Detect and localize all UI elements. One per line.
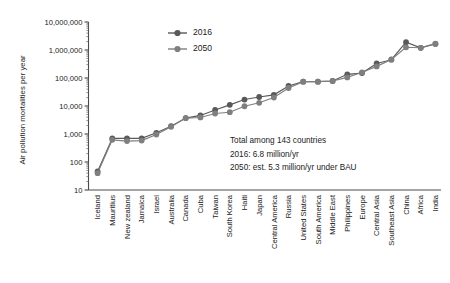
- annotation-line: 2016: 6.8 million/yr: [230, 150, 299, 159]
- data-point: [256, 100, 262, 106]
- x-axis-tick-label: Jamaica: [137, 194, 146, 223]
- x-axis-tick-label: Central America: [270, 194, 279, 249]
- data-point: [124, 138, 130, 144]
- x-axis-tick-label: Canada: [181, 194, 190, 221]
- data-point: [227, 102, 233, 108]
- x-axis-tick-label: India: [431, 194, 440, 211]
- data-point: [315, 79, 321, 85]
- y-axis-tick-label: 10,000,000: [44, 18, 82, 27]
- legend-item-2050[interactable]: 2050: [168, 43, 212, 53]
- x-axis-tick-label: Philippines: [343, 195, 352, 232]
- data-point: [183, 115, 189, 121]
- annotation-line: Total among 143 countries: [230, 136, 326, 145]
- data-point: [433, 41, 439, 47]
- legend-item-2016[interactable]: 2016: [168, 27, 212, 37]
- data-point: [330, 78, 336, 84]
- y-axis-tick-label: 100,000: [55, 74, 82, 83]
- data-point: [344, 75, 350, 81]
- data-point: [212, 111, 218, 117]
- data-point: [227, 109, 233, 115]
- x-axis-tick-label: Europe: [358, 195, 367, 220]
- x-axis-tick-label: Japan: [255, 195, 264, 216]
- data-point: [271, 95, 277, 101]
- x-axis-tick-label: South America: [314, 194, 323, 244]
- y-axis-tick-label: 1,000,000: [49, 46, 83, 55]
- data-point: [109, 137, 115, 143]
- chart-canvas: Air pollution mortalities per year 10,00…: [0, 0, 450, 283]
- air-pollution-mortality-chart: Air pollution mortalities per year 10,00…: [0, 0, 450, 283]
- y-axis-tick-label: 1,000: [63, 130, 82, 139]
- data-point: [242, 97, 248, 103]
- y-axis-tick-label: 10: [74, 186, 82, 195]
- data-point: [374, 63, 380, 69]
- y-axis-tick-label: 10,000: [59, 102, 82, 111]
- data-point: [168, 124, 174, 130]
- data-point: [403, 44, 409, 50]
- x-axis-tick-label: Cuba: [196, 194, 205, 213]
- legend-marker: [174, 30, 180, 36]
- x-axis-tick-label: Taiwan: [211, 195, 220, 219]
- data-point: [286, 85, 292, 91]
- data-point: [388, 57, 394, 63]
- data-point: [359, 69, 365, 75]
- x-axis-tick-label: South Korea: [225, 194, 234, 237]
- data-point: [256, 94, 262, 100]
- legend-marker: [174, 46, 180, 52]
- data-point: [242, 103, 248, 109]
- x-axis-tick-label: Mauritius: [108, 195, 117, 226]
- y-axis-title-label: Air pollution mortalities per year: [18, 55, 27, 165]
- y-axis-title: Air pollution mortalities per year: [18, 55, 27, 165]
- data-point: [95, 170, 101, 176]
- x-axis-tick-label: Iceland: [93, 195, 102, 220]
- data-point: [300, 79, 306, 85]
- x-axis-tick-label: Australia: [167, 194, 176, 224]
- x-axis-tick-label: Israel: [152, 195, 161, 214]
- x-axis-tick-label: Southeast Asia: [387, 194, 396, 245]
- data-point: [153, 132, 159, 138]
- x-axis-tick-label: Russia: [284, 194, 293, 218]
- legend-label: 2016: [193, 27, 212, 37]
- data-point: [198, 115, 204, 121]
- x-axis-tick-label: Central Asia: [372, 194, 381, 236]
- data-point: [139, 138, 145, 144]
- data-point: [418, 45, 424, 51]
- y-axis: 10,000,0001,000,000100,00010,0001,000100…: [44, 18, 88, 195]
- legend-label: 2050: [193, 43, 212, 53]
- chart-legend: 20162050: [168, 27, 212, 53]
- x-axis-tick-label: Middle East: [328, 194, 337, 235]
- data-point: [403, 39, 409, 45]
- x-axis-tick-label: China: [402, 194, 411, 215]
- x-axis-tick-label: Africa: [416, 194, 425, 214]
- x-axis-tick-label: Haiti: [240, 195, 249, 211]
- annotation-line: 2050: est. 5.3 million/yr under BAU: [230, 163, 357, 172]
- x-axis: IcelandMauritiusNew zealandJamaicaIsrael…: [89, 190, 442, 249]
- x-axis-tick-label: New zealand: [123, 195, 132, 239]
- chart-annotation: Total among 143 countries2016: 6.8 milli…: [230, 136, 357, 172]
- x-axis-tick-label: United States: [299, 195, 308, 241]
- y-axis-tick-label: 100: [70, 158, 83, 167]
